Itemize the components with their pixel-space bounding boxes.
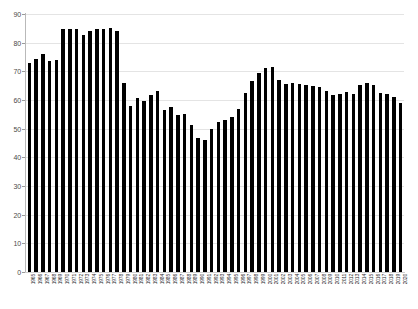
- bar: [55, 60, 59, 272]
- x-axis-tick-label: 1990: [200, 274, 205, 284]
- bar: [244, 93, 248, 272]
- y-axis-tick-label: 0: [17, 269, 21, 276]
- x-axis-tick-label: 2011: [342, 274, 347, 284]
- x-axis-tick-labels: 1965196619671968196919701971197219731974…: [26, 274, 404, 308]
- bar: [68, 29, 72, 272]
- bar: [61, 29, 65, 272]
- x-axis-tick-label: 1987: [180, 274, 185, 284]
- y-axis-tick-labels: 0102030405060708090: [0, 14, 21, 272]
- x-axis-tick-label: 2013: [355, 274, 360, 284]
- y-axis-tick-label: 40: [13, 154, 21, 161]
- bar: [115, 31, 119, 272]
- bar: [250, 81, 254, 272]
- x-axis-tick-label: 2005: [301, 274, 306, 284]
- x-axis-tick-label: 1970: [65, 274, 70, 284]
- x-axis-tick-label: 1976: [106, 274, 111, 284]
- x-axis-tick-label: 1988: [187, 274, 192, 284]
- x-axis-tick-label: 1972: [79, 274, 84, 284]
- bar: [230, 117, 234, 272]
- bar: [88, 31, 92, 272]
- x-axis-tick-label: 2019: [396, 274, 401, 284]
- bar: [136, 98, 140, 272]
- bar: [277, 80, 281, 272]
- bar: [338, 94, 342, 272]
- x-axis-tick-label: 2001: [274, 274, 279, 284]
- bar: [149, 95, 153, 272]
- x-axis-line: [25, 272, 405, 273]
- x-axis-tick-label: 2008: [322, 274, 327, 284]
- bar: [325, 91, 329, 272]
- bar: [41, 54, 45, 272]
- y-axis-tick-mark: [22, 243, 25, 244]
- y-axis-tick-label: 90: [13, 11, 21, 18]
- x-axis-tick-label: 2020: [403, 274, 408, 284]
- x-axis-tick-label: 1973: [85, 274, 90, 284]
- bar: [237, 109, 241, 272]
- y-axis-tick-mark: [22, 43, 25, 44]
- x-axis-tick-label: 1997: [247, 274, 252, 284]
- y-axis-tick-mark: [22, 215, 25, 216]
- bar: [28, 63, 32, 272]
- y-axis-tick-mark: [22, 71, 25, 72]
- x-axis-tick-label: 1986: [173, 274, 178, 284]
- bar: [95, 29, 99, 272]
- y-axis-tick-mark: [22, 100, 25, 101]
- bar: [304, 85, 308, 272]
- x-axis-tick-label: 2016: [376, 274, 381, 284]
- bar: [142, 101, 146, 272]
- bar: [284, 84, 288, 272]
- x-axis-tick-label: 1968: [52, 274, 57, 284]
- x-axis-tick-label: 2014: [362, 274, 367, 284]
- bar: [372, 85, 376, 272]
- x-axis-tick-label: 2003: [288, 274, 293, 284]
- bars-layer: [26, 14, 404, 272]
- bar: [311, 86, 315, 272]
- x-axis-tick-label: 1974: [92, 274, 97, 284]
- y-axis-tick-label: 60: [13, 97, 21, 104]
- bar: [176, 115, 180, 272]
- bar: [392, 97, 396, 272]
- bar: [102, 29, 106, 272]
- bar: [291, 83, 295, 272]
- y-axis-tick-mark: [22, 186, 25, 187]
- bar: [75, 29, 79, 272]
- x-axis-tick-label: 1979: [126, 274, 131, 284]
- x-axis-tick-label: 1989: [193, 274, 198, 284]
- bar: [82, 35, 86, 272]
- x-axis-tick-label: 1966: [38, 274, 43, 284]
- x-axis-tick-label: 1969: [58, 274, 63, 284]
- x-axis-tick-label: 2004: [295, 274, 300, 284]
- bar: [352, 94, 356, 272]
- x-axis-tick-label: 1984: [160, 274, 165, 284]
- y-axis-tick-mark: [22, 157, 25, 158]
- bar: [196, 138, 200, 272]
- x-axis-tick-label: 1967: [45, 274, 50, 284]
- y-axis-tick-label: 70: [13, 68, 21, 75]
- plot-area: [26, 14, 404, 272]
- x-axis-tick-label: 2012: [349, 274, 354, 284]
- bar: [223, 120, 227, 272]
- y-axis-tick-label: 20: [13, 211, 21, 218]
- bar: [264, 68, 268, 272]
- y-axis-tick-label: 50: [13, 125, 21, 132]
- x-axis-tick-label: 1965: [31, 274, 36, 284]
- x-axis-tick-label: 1994: [227, 274, 232, 284]
- bar: [217, 122, 221, 272]
- bar: [190, 125, 194, 272]
- x-axis-tick-label: 2007: [315, 274, 320, 284]
- x-axis-tick-label: 1993: [220, 274, 225, 284]
- y-axis-tick-label: 10: [13, 240, 21, 247]
- bar: [379, 93, 383, 272]
- x-axis-tick-label: 2010: [335, 274, 340, 284]
- bar-chart: 0102030405060708090 19651966196719681969…: [0, 0, 418, 309]
- x-axis-tick-label: 1983: [153, 274, 158, 284]
- bar: [34, 59, 38, 272]
- x-axis-tick-label: 1998: [254, 274, 259, 284]
- x-axis-tick-label: 2017: [382, 274, 387, 284]
- bar: [169, 107, 173, 272]
- y-axis-tick-mark: [22, 129, 25, 130]
- x-axis-tick-label: 1995: [234, 274, 239, 284]
- x-axis-tick-label: 2002: [281, 274, 286, 284]
- bar: [129, 106, 133, 272]
- x-axis-tick-label: 1982: [146, 274, 151, 284]
